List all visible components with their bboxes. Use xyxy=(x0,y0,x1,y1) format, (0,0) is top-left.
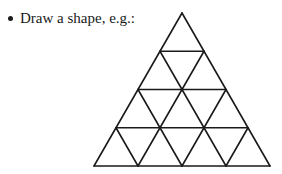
right-diagonal-line xyxy=(160,51,226,166)
left-diagonal-line xyxy=(138,51,204,166)
subdivided-triangle-figure xyxy=(0,0,282,174)
right-diagonal-line xyxy=(116,128,138,166)
left-diagonal-line xyxy=(226,128,248,166)
